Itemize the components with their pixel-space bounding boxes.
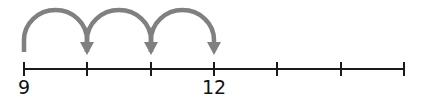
tick-label-start: 9 xyxy=(18,78,30,97)
jump-arrow-icon xyxy=(87,10,158,55)
jump-arcs xyxy=(24,10,221,55)
jump-arrow-icon xyxy=(151,10,221,55)
number-line-diagram: 9 12 xyxy=(0,0,429,107)
tick-label-end: 12 xyxy=(202,78,226,97)
jump-arrow-icon xyxy=(24,10,94,55)
